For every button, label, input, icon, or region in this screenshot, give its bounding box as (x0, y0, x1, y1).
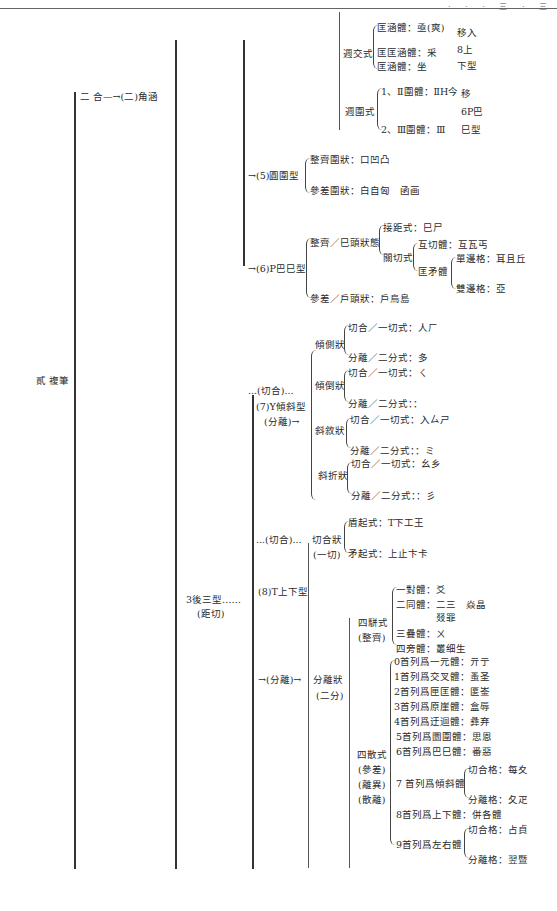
type7-fenli: (分離)→ (264, 416, 299, 427)
houtype-label: 3後三型…… (186, 594, 241, 605)
sisan-label: 四散式 (357, 749, 387, 760)
zhoujiao-item-2: 匡涵體：坐 (377, 61, 427, 72)
type6-jieju: 接距式：巳尸 (383, 222, 443, 233)
jiaohan-inner-line (339, 12, 340, 130)
sisan-item-9: 9首列爲左右體 (396, 839, 462, 850)
sisan-item-3: 3首列爲原崖體：盒辱 (394, 701, 490, 712)
sisan-item-6: 6首列爲巴巳體：番惡 (396, 746, 492, 757)
root-bracket-line (74, 92, 76, 869)
sisan-sub-0: (參差) (358, 764, 385, 775)
sisan-sub-2: (散離) (358, 794, 385, 805)
type7-group-3-label: 斜折狀 (318, 470, 348, 481)
type6-huqie: 互切體：互瓦丐 (418, 239, 488, 250)
type7-group-1-label: 傾倒狀 (315, 380, 345, 391)
type8-label: (8)T上下型 (258, 586, 308, 597)
type7-group-3-b: 分離／二分式：：彡 (351, 490, 436, 501)
type7-group-0-a: 切合／一切式：人ㄏ (348, 322, 438, 333)
houtype-bracket-line (252, 395, 254, 869)
zhoujiao-item-0: 匡涵體：亟(爽) (377, 22, 444, 33)
siping-item-1: 二同體：二三 焱晶 (396, 599, 486, 610)
zhoujiao-item-1: 匡匡涵體：采 (377, 47, 437, 58)
type7-group-1-a: 切合／一切式：ㄑ (348, 367, 428, 378)
type7-group-2-b: 分離／二分式：：ミ (350, 445, 435, 456)
houtype-sub: (距切) (197, 608, 224, 619)
zhoujiao-label: 週交式 (343, 48, 373, 59)
zhouwei-side-2: 巳型 (461, 124, 481, 135)
type8-maoqi: 矛起式：上止卞卡 (348, 548, 428, 559)
zhouwei-item-1: 2、Ⅲ圍體：Ⅲ (381, 124, 445, 135)
type8-qiehezhuang: 切合狀 (312, 534, 342, 545)
type5-label: →(5)圓圍型 (248, 170, 299, 181)
type8-fenli: →(分離)→ (258, 674, 301, 685)
type7-group-0-b: 分離／二分式：多 (348, 352, 428, 363)
zhoujiao-side-1: 8上 (457, 44, 473, 55)
type8-bracket (308, 543, 309, 868)
sisan-item-9b: 分離格：翌暨 (468, 854, 528, 865)
siping-sub: (整齊) (358, 632, 385, 643)
type6-zhengqi: 整齊／巳頭狀態 (310, 237, 380, 248)
zhouwei-side-0: 移 (461, 88, 471, 99)
type8-yiqie: (一切) (313, 549, 340, 560)
siping-item-4: 四旁體：叢细生 (396, 643, 466, 654)
type7-group-3-a: 切合／一切式：幺乡 (351, 458, 441, 469)
page-header-marks: · · · 三 · 三 (448, 0, 553, 11)
type7-group-2-label: 斜敘狀 (315, 425, 345, 436)
type6-guanqie: 關切式 (383, 252, 413, 263)
type8-erfen: (二分) (316, 690, 343, 701)
zhoujiao-side-2: 下型 (457, 60, 477, 71)
type6-danbian: 單邊格：耳且丘 (456, 253, 526, 264)
sisan-item-7: 7 首列爲傾斜體 (396, 778, 465, 789)
type6-shuangbian: 雙邊格：亞 (456, 283, 506, 294)
zhouwei-side-1: 6P巴 (461, 106, 483, 117)
sisan-item-0: 0首列爲一元體：亓亍 (394, 656, 490, 667)
sisan-item-1: 1首列爲交叉體：蚤圣 (394, 671, 490, 682)
type6-kuangmao: 匡矛體 (418, 266, 448, 277)
jiaohan-bracket-line (243, 40, 245, 266)
zhouwei-item-0: 1、Ⅱ圍體：ⅡH今 (381, 86, 458, 97)
type5-item-0: 整齊圍狀：口凹凸 (310, 154, 390, 165)
he-label: 二 合—→(二)角涵 (80, 91, 158, 102)
sisan-item-4: 4首列爲迂迴體：彝弃 (394, 716, 490, 727)
type6-label: →(6)P巴巳型 (248, 263, 306, 274)
type7-group-0-label: 傾側狀 (315, 339, 345, 350)
type8-dunqi: 盾起式：T下工王 (348, 517, 424, 528)
siping-item-2: 叕罪 (396, 612, 456, 623)
type8-fenli-bracket (349, 618, 350, 868)
type5-item-1: 參差圍狀：白自匈 函画 (310, 185, 420, 196)
siping-label: 四駢式 (358, 617, 388, 628)
type7-group-2-a: 切合／一切式：入ㄙㄕ (350, 414, 450, 425)
type6-cenci: 參差／戶頭狀：戶烏島 (310, 293, 410, 304)
he-bracket-line (175, 40, 177, 869)
type8-fenlizhuang: 分離狀 (313, 674, 343, 685)
siping-item-3: 三疊體：ㄨ (396, 628, 446, 639)
sisan-item-9a: 切合格：占貞 (468, 824, 528, 835)
type7-label: (7)Y傾斜型 (256, 401, 306, 412)
sisan-item-7b: 分離格：夂疋 (468, 794, 528, 805)
sisan-item-2: 2首列爲匣匡體：匽崟 (394, 686, 490, 697)
sisan-item-5: 5首列爲圜圍體：思恩 (396, 731, 492, 742)
zhouwei-label: 週圍式 (345, 106, 375, 117)
type8-qiehe: ...(切合)... (256, 534, 302, 545)
type7-group-1-b: 分離／二分式：： (348, 398, 423, 409)
sisan-sub-1: (離異) (358, 779, 385, 790)
siping-item-0: 一對體：爻 (396, 584, 446, 595)
sisan-item-7a: 切合格：每夊 (468, 764, 528, 775)
zhoujiao-side-0: 移入 (457, 27, 477, 38)
type7-qiehe: ...(切合)... (248, 385, 294, 396)
sisan-item-8: 8首列爲上下體：併各體 (396, 809, 502, 820)
root-label: 貳 複筆 (36, 375, 69, 386)
